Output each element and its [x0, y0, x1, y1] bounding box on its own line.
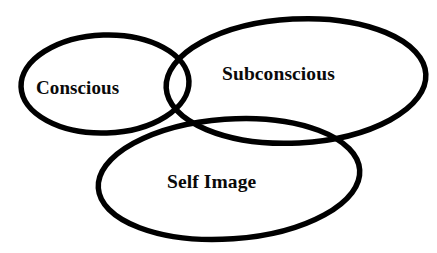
venn-diagram-shapes	[0, 0, 437, 253]
label-self-image: Self Image	[167, 172, 256, 192]
label-conscious: Conscious	[36, 78, 119, 97]
venn-diagram: Conscious Subconscious Self Image	[0, 0, 437, 253]
label-subconscious: Subconscious	[222, 64, 335, 84]
